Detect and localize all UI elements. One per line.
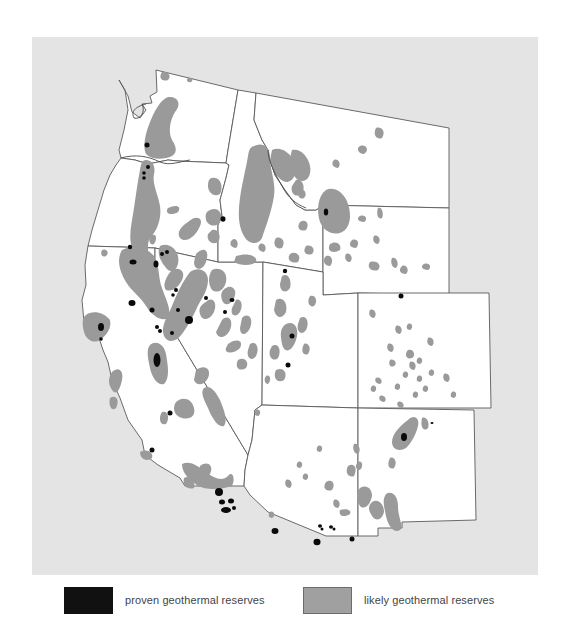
legend-item-likely: likely geothermal reserves	[303, 585, 494, 615]
proven-reserve-nv-1	[174, 288, 178, 292]
proven-reserve-nv-3	[204, 296, 208, 300]
proven-reserve-az-5	[329, 525, 333, 529]
likely-reserve-nv-south-1	[237, 359, 248, 370]
proven-reserve-az-7	[350, 537, 355, 542]
proven-reserve-ca-ne-4	[165, 250, 169, 254]
proven-reserve-ca-ne-6	[150, 308, 155, 313]
legend-label-proven: proven geothermal reserves	[125, 594, 265, 606]
likely-reserve-az-1	[347, 465, 356, 477]
proven-reserve-nv-9	[176, 308, 180, 312]
proven-reserve-nv-2	[171, 293, 175, 297]
legend-item-proven: proven geothermal reserves	[64, 585, 265, 615]
proven-reserve-or-south-1	[128, 245, 132, 249]
western-us-geothermal-map	[0, 0, 567, 635]
proven-reserve-nv-7	[155, 325, 159, 329]
proven-reserve-ut-1	[290, 334, 295, 339]
proven-reserve-ca-imperial-3	[228, 499, 234, 504]
proven-swatch	[64, 587, 113, 614]
likely-reserve-ut-5	[308, 296, 316, 307]
proven-reserve-id-south	[283, 269, 287, 273]
state-arizona	[244, 405, 358, 536]
proven-reserve-wy-south	[399, 294, 404, 299]
likely-reserve-ut-7	[275, 369, 286, 381]
proven-reserve-ca-ne-1	[130, 260, 137, 265]
likely-reserve-ca-coast-3	[109, 397, 117, 410]
proven-reserve-ca-central	[168, 411, 173, 416]
proven-reserve-wa-1	[145, 143, 150, 148]
proven-reserve-az-3	[318, 524, 322, 528]
proven-reserve-ca-imperial-1	[215, 488, 223, 496]
proven-reserve-yellowstone	[324, 209, 328, 216]
likely-reserve-ca-central-2	[160, 412, 168, 425]
proven-reserve-ca-coast-1	[98, 323, 104, 331]
likely-reserve-ut-2	[274, 299, 286, 317]
proven-reserve-az-4	[321, 528, 324, 531]
proven-reserve-ca-south	[150, 448, 155, 453]
proven-reserve-ca-coast-2	[99, 337, 103, 341]
state-washington	[119, 70, 238, 164]
likely-swatch	[303, 587, 352, 614]
proven-reserve-ca-ne-2	[154, 261, 159, 268]
proven-reserve-nm-north-2	[431, 422, 434, 424]
proven-reserve-nv-4	[185, 316, 193, 324]
legend: proven geothermal reserves likely geothe…	[0, 585, 567, 625]
proven-reserve-ca-ne-5	[129, 300, 136, 306]
proven-reserve-or-3	[142, 176, 146, 180]
proven-reserve-ca-ne-3	[160, 252, 164, 256]
proven-reserve-nv-8	[158, 329, 162, 333]
likely-reserve-id-south-5	[234, 254, 256, 265]
likely-reserve-wy-4	[329, 242, 340, 252]
state-boundaries	[82, 70, 491, 536]
proven-reserve-or-1	[146, 165, 150, 169]
proven-reserve-az-1	[272, 528, 279, 534]
proven-reserve-ca-imperial-4	[221, 507, 231, 513]
proven-reserve-nv-6	[223, 310, 227, 314]
proven-reserve-id-border	[221, 216, 226, 222]
likely-reserve-or-east-3	[206, 209, 222, 226]
proven-reserve-or-2	[142, 171, 146, 175]
proven-reserve-ca-imperial-5	[232, 506, 236, 510]
proven-reserve-ca-imperial-2	[219, 500, 225, 505]
proven-reserve-az-2	[314, 539, 321, 545]
proven-reserve-ut-2	[286, 363, 291, 368]
proven-reserve-az-6	[333, 528, 336, 531]
proven-reserve-nv-5	[230, 298, 235, 302]
legend-label-likely: likely geothermal reserves	[364, 594, 494, 606]
likely-reserve-ca-southeast-2	[200, 464, 212, 476]
proven-reserve-ca-geysers	[154, 353, 161, 367]
proven-reserve-nm-north	[401, 433, 407, 441]
proven-reserve-nv-10	[170, 331, 174, 335]
